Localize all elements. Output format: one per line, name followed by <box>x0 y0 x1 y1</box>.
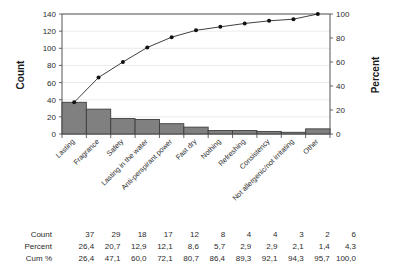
right-axis-tick-label: 60 <box>336 58 345 67</box>
table-cell: 26,4 <box>79 254 95 263</box>
right-axis-tick-label: 80 <box>336 34 345 43</box>
table-cell: 92,1 <box>262 254 278 263</box>
table-cell: 4 <box>247 230 252 239</box>
table-cell: 17 <box>164 230 173 239</box>
category-label: Other <box>301 137 321 157</box>
table-cell: 12,1 <box>157 242 173 251</box>
table-cell: 100,0 <box>336 254 357 263</box>
bar <box>306 129 330 134</box>
table-cell: 12 <box>190 230 199 239</box>
table-cell: 89,3 <box>236 254 252 263</box>
cumulative-point <box>170 35 174 39</box>
cumulative-point <box>145 45 149 49</box>
table-cell: 18 <box>138 230 147 239</box>
bar <box>159 124 183 134</box>
bar <box>86 109 110 134</box>
bar <box>111 119 135 134</box>
table-cell: 80,7 <box>183 254 199 263</box>
table-cell: 60,0 <box>131 254 147 263</box>
table-cell: 37 <box>85 230 94 239</box>
table-cell: 8 <box>221 230 226 239</box>
table-cell: 47,1 <box>105 254 121 263</box>
left-axis-tick-label: 0 <box>52 130 57 139</box>
cumulative-line <box>74 14 318 102</box>
bar <box>281 132 305 134</box>
summary-table: Count3729181712844326Percent26,420,712,9… <box>24 230 356 263</box>
table-cell: 20,7 <box>105 242 121 251</box>
table-cell: 2,9 <box>266 242 278 251</box>
table-cell: 6 <box>352 230 357 239</box>
cumulative-point <box>291 17 295 21</box>
bar <box>208 131 232 134</box>
bar <box>135 119 159 134</box>
category-label: Lasting <box>54 137 77 160</box>
pareto-chart-canvas: 020406080100120140 020406080100 LastingF… <box>0 0 394 279</box>
table-cell: 12,9 <box>131 242 147 251</box>
table-cell: 8,6 <box>188 242 200 251</box>
table-row-label: Percent <box>24 242 52 251</box>
right-axis-tick-label: 0 <box>336 130 341 139</box>
right-axis-tick-label: 20 <box>336 106 345 115</box>
left-axis-tick-label: 80 <box>47 61 56 70</box>
bar <box>184 127 208 134</box>
cumulative-point <box>194 28 198 32</box>
table-cell: 4 <box>273 230 278 239</box>
category-label: Safety <box>105 137 126 158</box>
table-cell: 95,7 <box>314 254 330 263</box>
cumulative-point <box>121 60 125 64</box>
table-cell: 94,3 <box>288 254 304 263</box>
left-axis-tick-label: 60 <box>47 79 56 88</box>
table-cell: 5,7 <box>214 242 226 251</box>
left-axis-tick-label: 120 <box>43 27 57 36</box>
left-axis-tick-label: 140 <box>43 10 57 19</box>
right-axis-title: Percent <box>370 56 381 93</box>
table-cell: 2,1 <box>293 242 305 251</box>
table-cell: 3 <box>299 230 304 239</box>
cumulative-point <box>316 12 320 16</box>
right-axis-tick-label: 40 <box>336 82 345 91</box>
cumulative-point <box>218 25 222 29</box>
cumulative-point <box>267 19 271 23</box>
bar-series <box>62 102 330 134</box>
table-cell: 86,4 <box>210 254 226 263</box>
pareto-chart: 020406080100120140 020406080100 LastingF… <box>0 0 394 279</box>
left-axis-tick-labels: 020406080100120140 <box>43 10 57 139</box>
left-axis-tick-label: 20 <box>47 113 56 122</box>
table-cell: 29 <box>111 230 120 239</box>
cumulative-line-series <box>72 12 320 104</box>
category-axis-labels: LastingFragranceSafetyLasting in the wat… <box>54 137 321 203</box>
right-axis-tick-labels: 020406080100 <box>336 10 350 139</box>
bar <box>62 102 86 134</box>
table-cell: 2 <box>325 230 330 239</box>
table-row-label: Cum % <box>26 254 52 263</box>
category-label: Fragrance <box>71 137 101 167</box>
table-cell: 26,4 <box>79 242 95 251</box>
bar <box>233 131 257 134</box>
bar <box>257 131 281 134</box>
table-row-label: Count <box>31 230 53 239</box>
table-cell: 1,4 <box>319 242 331 251</box>
category-label: Fast dry <box>174 137 199 162</box>
table-cell: 2,9 <box>240 242 252 251</box>
table-cell: 72,1 <box>157 254 173 263</box>
right-axis-tick-label: 100 <box>336 10 350 19</box>
left-axis-tick-label: 40 <box>47 96 56 105</box>
left-axis-tick-label: 100 <box>43 44 57 53</box>
table-cell: 4,3 <box>345 242 357 251</box>
left-axis-title: Count <box>15 60 26 90</box>
cumulative-point <box>72 100 76 104</box>
cumulative-point <box>243 21 247 25</box>
cumulative-point <box>97 75 101 79</box>
